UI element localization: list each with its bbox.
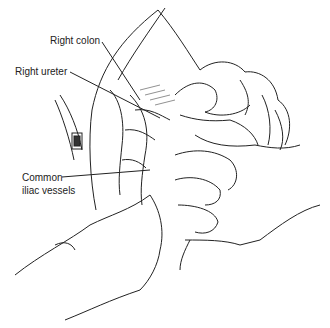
line-drawing (0, 0, 330, 328)
label-common-iliac-line1: Common (22, 172, 63, 184)
label-right-colon: Right colon (50, 35, 100, 47)
surgical-illustration: Right colon Right ureter Common iliac ve… (0, 0, 330, 328)
label-common-iliac-line2: iliac vessels (22, 185, 75, 197)
label-right-ureter: Right ureter (15, 66, 67, 78)
